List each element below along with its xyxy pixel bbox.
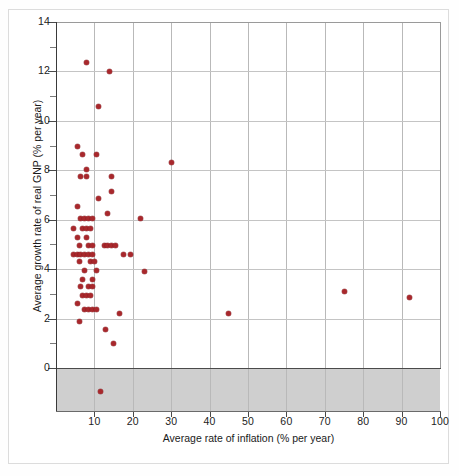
x-tick-label: 50: [228, 415, 268, 427]
x-gridline: [402, 22, 403, 412]
scatter-point: [71, 226, 76, 231]
x-tick-label: 60: [266, 415, 306, 427]
y-axis-line: [56, 22, 57, 412]
scatter-point: [75, 301, 80, 306]
scatter-point: [88, 226, 93, 231]
figure-frame: 10203040506070809010002468101214 Average…: [0, 0, 459, 476]
scatter-point: [342, 289, 347, 294]
zero-growth-line: [56, 368, 441, 369]
y-minor-tick-mark: [50, 343, 56, 344]
scatter-point: [88, 293, 93, 298]
y-gridline: [56, 319, 441, 320]
x-gridline: [248, 22, 249, 412]
scatter-point: [94, 268, 99, 273]
x-gridline: [325, 22, 326, 412]
y-minor-tick-mark: [50, 146, 56, 147]
scatter-point: [90, 284, 95, 289]
scatter-point: [96, 196, 101, 201]
y-minor-tick-mark: [50, 96, 56, 97]
scatter-point: [80, 277, 85, 282]
y-axis-title: Average growth rate of real GNP (% per y…: [31, 91, 43, 321]
scatter-point: [84, 167, 89, 172]
scatter-point: [111, 341, 116, 346]
plot-right-border: [440, 22, 441, 368]
x-tick-label: 90: [382, 415, 422, 427]
y-gridline: [56, 71, 441, 72]
scatter-point: [142, 269, 147, 274]
scatter-point: [96, 104, 101, 109]
scatter-point: [90, 216, 95, 221]
scatter-point: [138, 216, 143, 221]
x-gridline: [133, 22, 134, 412]
y-tick-label: 0: [26, 361, 50, 373]
x-gridline: [210, 22, 211, 412]
x-tick-label: 80: [343, 415, 383, 427]
x-gridline: [286, 22, 287, 412]
scatter-point: [77, 259, 82, 264]
y-minor-tick-mark: [50, 244, 56, 245]
scatter-point: [84, 235, 89, 240]
y-gridline: [56, 220, 441, 221]
y-tick-label: 14: [26, 15, 50, 27]
x-tick-label: 20: [113, 415, 153, 427]
scatter-point: [94, 152, 99, 157]
x-tick-label: 30: [151, 415, 191, 427]
scatter-point: [121, 252, 126, 257]
scatter-point: [117, 311, 122, 316]
scatter-point: [75, 144, 80, 149]
x-tick-label: 100: [420, 415, 459, 427]
y-gridline: [56, 170, 441, 171]
y-minor-tick-mark: [50, 195, 56, 196]
plot-top-border: [56, 22, 441, 23]
y-tick-label: 12: [26, 64, 50, 76]
scatter-point: [75, 204, 80, 209]
scatter-point: [77, 319, 82, 324]
y-gridline: [56, 269, 441, 270]
scatter-point: [77, 243, 82, 248]
x-axis-title: Average rate of inflation (% per year): [56, 432, 441, 444]
y-minor-tick-mark: [50, 294, 56, 295]
x-tick-label: 40: [190, 415, 230, 427]
x-gridline: [363, 22, 364, 412]
scatter-point: [90, 252, 95, 257]
x-tick-label: 70: [305, 415, 345, 427]
scatter-point: [90, 277, 95, 282]
y-gridline: [56, 121, 441, 122]
scatter-point: [407, 295, 412, 300]
scatter-point: [75, 235, 80, 240]
y-minor-tick-mark: [50, 47, 56, 48]
scatter-point: [98, 389, 103, 394]
scatter-point: [109, 189, 114, 194]
x-tick-label: 10: [74, 415, 114, 427]
x-gridline: [171, 22, 172, 412]
